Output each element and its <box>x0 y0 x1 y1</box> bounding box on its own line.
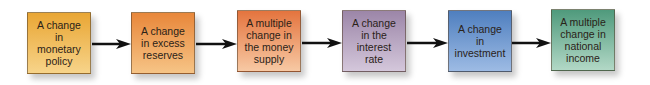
arrow-4 <box>407 37 448 49</box>
node-investment: A change in investment <box>448 10 512 72</box>
node-monetary-policy: A change in monetary policy <box>27 12 91 74</box>
arrow-1 <box>92 38 131 50</box>
node-label: A change in the interest rate <box>352 17 396 65</box>
node-label: A change in excess reserves <box>141 25 185 61</box>
node-money-supply: A multiple change in the money supply <box>237 10 301 72</box>
arrow-2 <box>196 38 237 50</box>
node-label: A change in investment <box>455 23 506 59</box>
node-national-income: A multiple change in national income <box>551 9 615 71</box>
node-label: A multiple change in national income <box>560 16 606 64</box>
node-label: A change in monetary policy <box>37 19 81 67</box>
arrow-3 <box>302 37 342 49</box>
arrow-5 <box>512 37 551 49</box>
node-interest-rate: A change in the interest rate <box>342 10 406 72</box>
node-excess-reserves: A change in excess reserves <box>131 12 195 74</box>
node-label: A multiple change in the money supply <box>244 17 293 65</box>
